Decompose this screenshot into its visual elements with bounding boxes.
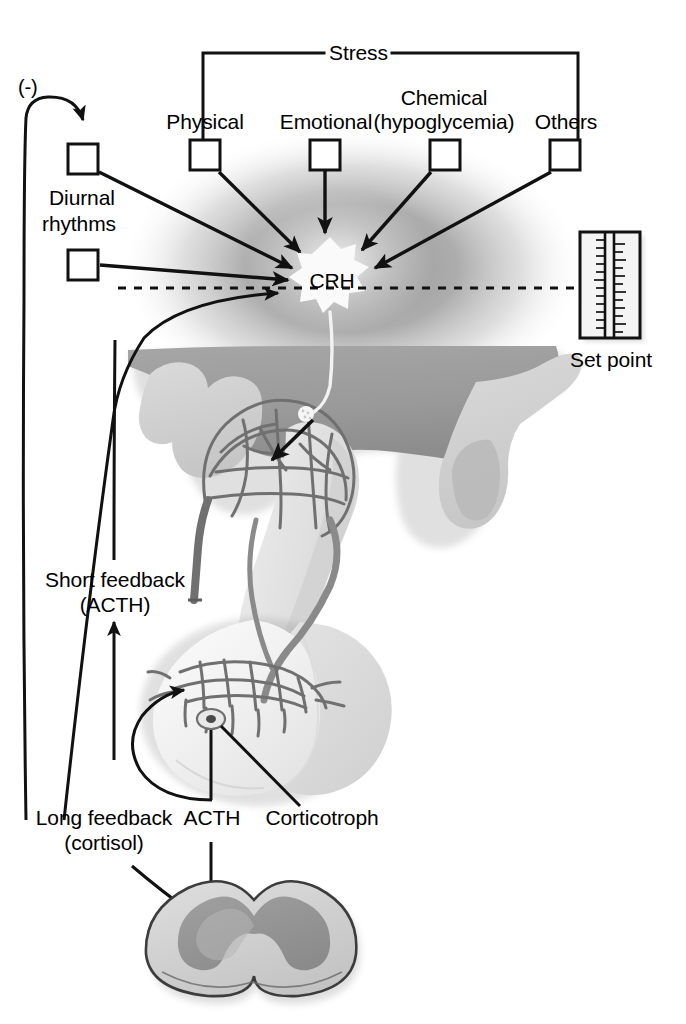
diurnal-box-upper (68, 144, 98, 174)
set-point-gauge (580, 232, 644, 342)
diagram-canvas: (-) Stress Physical Emotional Chemical (… (0, 0, 686, 1024)
diurnal-box-lower (68, 250, 98, 280)
negative-sign-label: (-) (18, 76, 38, 98)
superior-hypophyseal-artery (188, 500, 208, 600)
short-feedback-vertical-upper (114, 340, 115, 560)
stress-box-others (550, 140, 580, 170)
stress-box-emotional (310, 140, 340, 170)
short-feedback-label-line2: (ACTH) (80, 593, 151, 617)
stress-label-physical: Physical (166, 110, 243, 134)
diurnal-rhythms-label-line1: Diurnal (49, 186, 115, 210)
stress-label-chemical: Chemical (401, 86, 488, 110)
adrenal-gland (146, 881, 360, 1004)
stress-label-chemical-sub: (hypoglycemia) (374, 110, 515, 134)
diurnal-rhythms-label-line2: rhythms (42, 212, 116, 236)
set-point-label: Set point (570, 348, 652, 372)
long-feedback-label-line1: Long feedback (36, 806, 172, 830)
stress-box-chemical (430, 140, 460, 170)
short-feedback-label-line1: Short feedback (45, 568, 185, 592)
hypothalamus-structure (128, 346, 581, 650)
hpa-axis-figure (0, 0, 686, 1024)
long-feedback-label-line2: (cortisol) (64, 831, 144, 855)
corticotroph-cell (197, 709, 225, 729)
stress-label-emotional: Emotional (280, 110, 372, 134)
stress-label-others: Others (535, 110, 597, 134)
stress-label: Stress (329, 41, 388, 65)
stress-box-physical (190, 140, 220, 170)
crh-label: CRH (309, 269, 354, 293)
corticotroph-label: Corticotroph (265, 806, 378, 830)
acth-label: ACTH (184, 806, 241, 830)
